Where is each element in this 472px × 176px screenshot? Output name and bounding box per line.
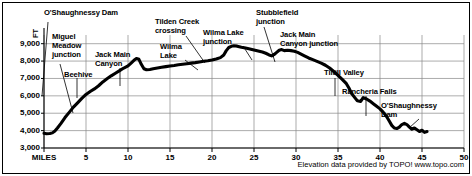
y-tick-label: 5,000 (0, 108, 40, 117)
annotation-label-oshaughnessy-dam-end: O'Shaughnessy Dam (381, 101, 437, 119)
chart-canvas (0, 0, 472, 176)
x-tick-label: 10 (106, 153, 150, 162)
annotation-label-tilden-creek-crossing: Tilden Creek crossing (155, 17, 199, 35)
x-tick-label: 25 (232, 153, 276, 162)
annotation-label-tiltill-valley: Tiltill Valley (324, 68, 364, 77)
annotation-label-oshaughnessy-dam-start: O'Shaughnessy Dam (44, 8, 118, 17)
y-tick-label: 3,000 (0, 143, 40, 152)
elevation-profile-chart: FT 3,0004,0005,0006,0007,0008,0009,000 M… (0, 0, 472, 176)
annotation-leader-line (42, 22, 48, 96)
annotation-label-stubblefield-junction: Stubblefield junction (256, 8, 298, 26)
y-tick-label: 8,000 (0, 56, 40, 65)
annotation-label-jack-main-canyon: Jack Main Canyon (95, 50, 130, 68)
y-axis-unit-label: FT (31, 29, 40, 38)
annotation-label-miguel-meadow-junction: Miguel Meadow junction (52, 32, 81, 60)
data-source-attribution: Elevation data provided by TOPO! www.top… (272, 160, 464, 169)
annotation-label-rancheria-falls: Rancheria Falls (342, 87, 397, 96)
y-tick-label: 7,000 (0, 73, 40, 82)
x-tick-label: 15 (148, 153, 192, 162)
x-tick-label: 5 (64, 153, 108, 162)
x-tick-label: MILES (22, 153, 66, 162)
annotation-label-wilma-lake: Wilma Lake (160, 42, 182, 60)
y-tick-label: 6,000 (0, 91, 40, 100)
y-tick-label: 9,000 (0, 39, 40, 48)
x-tick-label: 20 (190, 153, 234, 162)
y-tick-label: 4,000 (0, 126, 40, 135)
annotation-label-beehive: Beehive (64, 70, 92, 79)
annotation-label-jack-main-canyon-junction: Jack Main Canyon junction (280, 30, 338, 48)
annotation-label-wilma-lake-junction: Wilma Lake junction (203, 28, 244, 46)
